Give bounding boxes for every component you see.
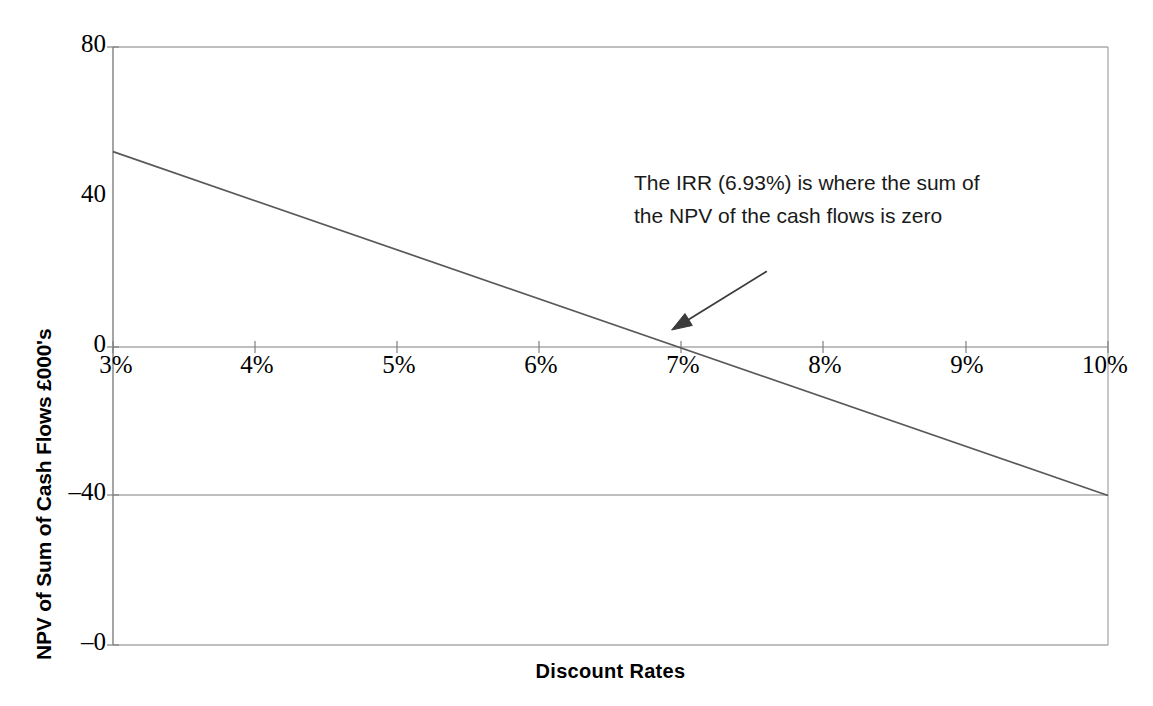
x-tick-8pct: 8% xyxy=(780,352,870,377)
x-tick-3pct: 3% xyxy=(71,352,161,377)
y-tick-80: 80 xyxy=(28,47,106,48)
x-axis-title: Discount Rates xyxy=(113,660,1108,683)
irr-annotation-line-2: the NPV of the cash flows is zero xyxy=(634,199,979,232)
x-tick-4pct: 4% xyxy=(212,352,302,377)
irr-annotation: The IRR (6.93%) is where the sum of the … xyxy=(634,166,979,232)
x-tick-9pct: 9% xyxy=(922,352,1012,377)
x-tick-7pct: 7% xyxy=(638,352,728,377)
x-tick-10pct: 10% xyxy=(1060,352,1150,377)
x-tick-5pct: 5% xyxy=(354,352,444,377)
chart-canvas: 80 40 0 –40 –0 3% 4% 5% 6% 7% 8% 9% 10% … xyxy=(0,0,1153,706)
y-axis-title: NPV of Sum of Cash Flows £000's xyxy=(22,60,66,660)
irr-arrow-icon xyxy=(672,271,767,330)
irr-annotation-line-1: The IRR (6.93%) is where the sum of xyxy=(634,166,979,199)
x-tick-6pct: 6% xyxy=(496,352,586,377)
